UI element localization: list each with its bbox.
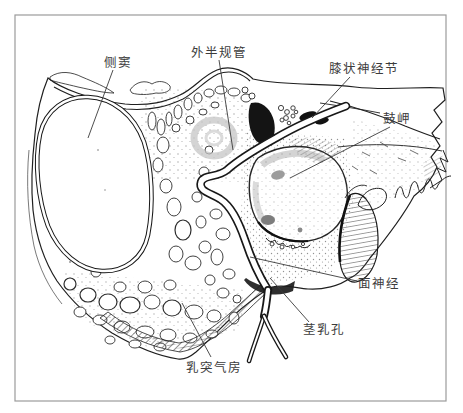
label-promontory: 鼓岬 xyxy=(383,112,411,126)
label-geniculate-ganglion: 膝状神经节 xyxy=(329,62,399,76)
label-stylomastoid-foramen: 茎乳孔 xyxy=(303,323,345,337)
label-lateral-semicircular-canal: 外半规管 xyxy=(191,45,247,60)
anatomy-figure: 侧窦 外半规管 膝状神经节 鼓岬 面神经 茎乳孔 乳突气房 xyxy=(0,0,463,413)
diagram-canvas: 侧窦 外半规管 膝状神经节 鼓岬 面神经 茎乳孔 乳突气房 xyxy=(0,0,463,413)
label-facial-nerve: 面神经 xyxy=(358,277,400,291)
label-lateral-sinus: 侧窦 xyxy=(104,56,132,70)
label-mastoid-air-cells: 乳突气房 xyxy=(186,360,242,375)
